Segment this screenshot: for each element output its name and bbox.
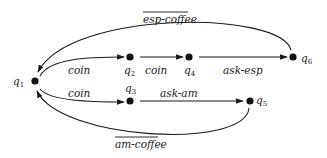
node-label-q4: q4 — [184, 64, 196, 78]
edge-label-q1-q3: coin — [68, 87, 91, 99]
edge-label-q3-q5: ask-am — [160, 87, 198, 99]
state-diagram: q1 q2 q4 q6 q3 q5 coin coin ask-esp esp-… — [0, 0, 327, 158]
edge-label-q5-q1: am-coffee — [115, 138, 167, 150]
node-label-q5: q5 — [256, 94, 267, 108]
state-node-q1 — [31, 77, 38, 84]
edge-label-q6-q1: esp-coffee — [143, 13, 197, 25]
edge-label-q2-q4: coin — [145, 64, 168, 76]
node-label-q2: q2 — [124, 64, 135, 78]
edge-label-q1-q2: coin — [68, 64, 91, 76]
state-node-q4 — [185, 53, 192, 60]
state-node-q2 — [126, 53, 133, 60]
edge-label-q4-q6: ask-esp — [223, 64, 263, 76]
state-node-q5 — [246, 97, 253, 104]
node-label-q3: q3 — [125, 82, 136, 96]
state-node-q3 — [126, 97, 133, 104]
node-label-q1: q1 — [13, 75, 24, 89]
node-label-q6: q6 — [301, 52, 313, 66]
diagram-svg: q1 q2 q4 q6 q3 q5 coin coin ask-esp esp-… — [0, 0, 327, 158]
state-node-q6 — [289, 53, 296, 60]
